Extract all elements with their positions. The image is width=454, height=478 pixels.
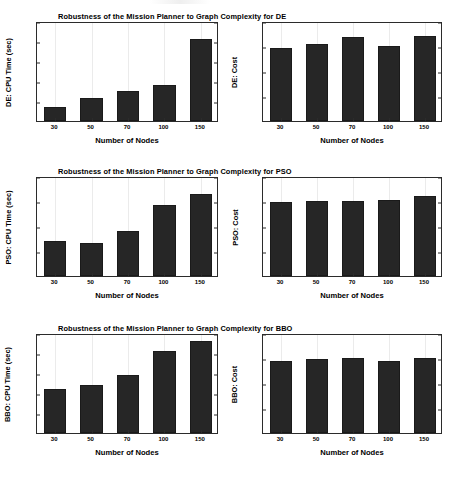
x-axis-tick-label: 30 bbox=[277, 436, 284, 442]
y-axis-tick-mark bbox=[263, 98, 266, 99]
bar bbox=[378, 200, 400, 277]
bar bbox=[153, 351, 176, 433]
y-axis-label-text: BBO: Cost bbox=[231, 365, 240, 402]
y-axis-tick-mark bbox=[37, 228, 40, 229]
x-axis-tick-mark bbox=[425, 273, 426, 276]
bar bbox=[342, 37, 364, 121]
y-axis-tick-mark bbox=[214, 203, 217, 204]
chart-row-pso: Robustness of the Mission Planner to Gra… bbox=[0, 163, 454, 318]
x-axis-tick-mark bbox=[317, 430, 318, 433]
y-axis-tick-mark bbox=[214, 228, 217, 229]
x-axis-label: Number of Nodes bbox=[262, 136, 442, 145]
plot-area: 01020304050 bbox=[36, 334, 218, 434]
x-axis-tick-mark bbox=[353, 430, 354, 433]
x-axis-tick-mark bbox=[55, 118, 56, 121]
bar bbox=[80, 385, 103, 433]
x-axis-tick-mark bbox=[55, 273, 56, 276]
y-axis-label: PSO: Cost bbox=[229, 177, 241, 277]
x-axis-tick-label: 70 bbox=[349, 279, 356, 285]
y-axis-tick-mark bbox=[214, 395, 217, 396]
bar bbox=[44, 389, 67, 433]
x-axis-tick-label: 50 bbox=[87, 436, 94, 442]
x-axis-tick-mark bbox=[164, 273, 165, 276]
x-axis-tick-label: 30 bbox=[51, 124, 58, 130]
x-axis-tick-label: 70 bbox=[349, 124, 356, 130]
scan-artifact bbox=[150, 0, 210, 4]
y-axis-tick-mark bbox=[438, 335, 441, 336]
x-axis-tick-label: 70 bbox=[124, 124, 131, 130]
y-axis-tick-mark bbox=[37, 253, 40, 254]
y-axis-tick-mark bbox=[438, 253, 441, 254]
bar bbox=[190, 341, 213, 433]
y-axis-tick-mark bbox=[263, 410, 266, 411]
plot-area: 00.20.40.60.8 bbox=[262, 22, 442, 122]
x-axis-tick-label: 150 bbox=[419, 124, 429, 130]
x-axis-tick-label: 150 bbox=[195, 279, 205, 285]
x-axis-tick-mark bbox=[128, 430, 129, 433]
x-axis-tick-label: 50 bbox=[313, 124, 320, 130]
y-axis-tick-mark bbox=[263, 335, 266, 336]
x-axis-tick-mark bbox=[55, 430, 56, 433]
x-axis-tick-mark bbox=[92, 118, 93, 121]
y-axis-tick-mark bbox=[214, 43, 217, 44]
x-axis-tick-mark bbox=[425, 430, 426, 433]
bar bbox=[342, 201, 364, 276]
x-axis-tick-label: 50 bbox=[87, 279, 94, 285]
x-axis-tick-mark bbox=[281, 273, 282, 276]
x-axis-tick-label: 100 bbox=[158, 279, 168, 285]
y-axis-tick-mark bbox=[37, 63, 40, 64]
chart-panel-bbo-cost: BBO: Cost00.20.40.60.8305070100150Number… bbox=[228, 320, 454, 475]
y-axis-label-text: PSO: Cost bbox=[231, 209, 240, 246]
plot-area: 00.20.40.60.8 bbox=[262, 177, 442, 277]
y-axis-tick-mark bbox=[263, 360, 266, 361]
y-axis-tick-mark bbox=[263, 23, 266, 24]
y-axis-tick-mark bbox=[37, 415, 40, 416]
x-axis-tick-mark bbox=[128, 273, 129, 276]
y-axis-label-text: BBO: CPU Time (sec) bbox=[4, 346, 13, 421]
chart-row-de: Robustness of the Mission Planner to Gra… bbox=[0, 8, 454, 163]
y-axis-tick-mark bbox=[263, 203, 266, 204]
chart-panel-pso-cpu-time: Robustness of the Mission Planner to Gra… bbox=[0, 163, 228, 318]
x-axis-tick-label: 150 bbox=[419, 279, 429, 285]
x-axis-tick-mark bbox=[389, 430, 390, 433]
y-axis-label: BBO: CPU Time (sec) bbox=[2, 334, 14, 434]
chart-row-bbo: Robustness of the Mission Planner to Gra… bbox=[0, 320, 454, 475]
bar bbox=[117, 375, 140, 433]
x-axis-tick-label: 30 bbox=[277, 279, 284, 285]
bar bbox=[153, 205, 176, 276]
bar bbox=[378, 46, 400, 121]
y-axis-tick-mark bbox=[438, 73, 441, 74]
bar bbox=[414, 358, 436, 433]
x-axis-tick-mark bbox=[164, 118, 165, 121]
y-axis-tick-mark bbox=[214, 375, 217, 376]
plot-area: 010203040 bbox=[36, 177, 218, 277]
y-axis-tick-mark bbox=[37, 23, 40, 24]
x-axis-tick-label: 150 bbox=[419, 436, 429, 442]
y-axis-label-text: DE: Cost bbox=[231, 56, 240, 87]
bar bbox=[306, 44, 328, 121]
y-axis-tick-mark bbox=[263, 228, 266, 229]
y-axis-tick-mark bbox=[438, 48, 441, 49]
bar bbox=[414, 36, 436, 121]
y-axis-tick-mark bbox=[214, 178, 217, 179]
y-axis-tick-mark bbox=[214, 63, 217, 64]
x-axis-tick-label: 100 bbox=[383, 436, 393, 442]
bar bbox=[306, 201, 328, 276]
y-axis-tick-mark bbox=[438, 228, 441, 229]
y-axis-tick-mark bbox=[214, 415, 217, 416]
y-axis-tick-mark bbox=[214, 103, 217, 104]
x-axis-tick-mark bbox=[317, 273, 318, 276]
x-axis-tick-mark bbox=[92, 273, 93, 276]
x-axis-tick-mark bbox=[389, 118, 390, 121]
x-axis-label: Number of Nodes bbox=[262, 291, 442, 300]
y-axis-label: DE: Cost bbox=[229, 22, 241, 122]
y-axis-tick-mark bbox=[263, 73, 266, 74]
x-axis-label: Number of Nodes bbox=[36, 291, 218, 300]
y-axis-tick-mark bbox=[438, 98, 441, 99]
x-axis-tick-mark bbox=[201, 118, 202, 121]
x-axis-tick-mark bbox=[353, 273, 354, 276]
y-axis-tick-mark bbox=[37, 375, 40, 376]
y-axis-tick-mark bbox=[438, 23, 441, 24]
y-axis-label-text: PSO: CPU Time (sec) bbox=[4, 190, 13, 264]
y-axis-label: DE: CPU Time (sec) bbox=[2, 22, 14, 122]
